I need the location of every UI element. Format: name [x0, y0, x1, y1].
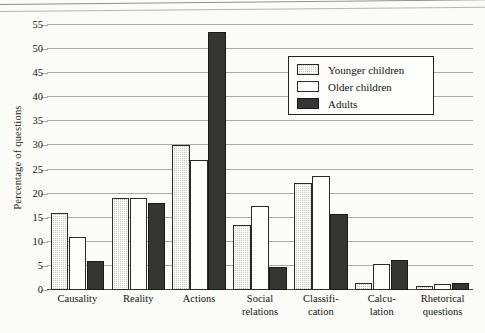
bar	[87, 261, 105, 290]
y-tick-label-0: 0	[38, 284, 43, 295]
x-axis-label-line: Actions	[169, 293, 230, 306]
x-axis-label-line: questions	[412, 306, 473, 319]
chart-figure: Percentage of questions 0510152025303540…	[0, 0, 485, 333]
bar	[355, 283, 373, 290]
bar	[269, 267, 287, 290]
x-axis-label: Socialrelations	[230, 293, 291, 318]
bar	[69, 237, 87, 290]
x-axis-label: Actions	[169, 293, 230, 306]
x-axis-label: Calcu-lation	[351, 293, 412, 318]
y-tick-label-25: 25	[33, 164, 44, 175]
y-tick-label-45: 45	[33, 67, 44, 78]
bar	[391, 260, 409, 290]
bar	[172, 145, 190, 291]
bar	[251, 206, 269, 290]
y-tick-label-30: 30	[33, 140, 44, 151]
legend-swatch-icon	[297, 81, 319, 92]
legend-swatch-icon	[297, 98, 319, 109]
chart-legend: Younger childrenOlder childrenAdults	[288, 56, 434, 115]
bar	[294, 183, 312, 290]
x-axis-label-line: Reality	[108, 293, 169, 306]
bar	[233, 225, 251, 290]
legend-label: Younger children	[328, 64, 404, 76]
bar	[330, 214, 348, 290]
x-axis-label: Causality	[47, 293, 108, 306]
bar-group	[233, 25, 287, 290]
x-axis-label-line: relations	[230, 306, 291, 319]
bar-group	[112, 25, 166, 290]
bar	[148, 203, 166, 290]
bar	[416, 286, 434, 290]
x-axis-labels: CausalityRealityActionsSocialrelationsCl…	[47, 293, 473, 333]
bar	[190, 160, 208, 290]
y-tick-label-35: 35	[33, 116, 44, 127]
y-axis-title: Percentage of questions	[12, 78, 23, 238]
x-axis-label-line: Classifi-	[290, 293, 351, 306]
bar	[112, 198, 130, 291]
bar-group	[51, 25, 105, 290]
bar	[130, 198, 148, 290]
x-axis-label: Reality	[108, 293, 169, 306]
y-tick-label-20: 20	[33, 188, 44, 199]
legend-label: Older children	[328, 81, 392, 93]
y-tick-label-50: 50	[33, 43, 44, 54]
x-axis-label-line: Causality	[47, 293, 108, 306]
x-axis-label-line: Calcu-	[351, 293, 412, 306]
x-axis-label: Classifi-cation	[290, 293, 351, 318]
y-tick-label-40: 40	[33, 92, 44, 103]
y-tick-label-5: 5	[38, 260, 43, 271]
y-tick-label-55: 55	[33, 19, 44, 30]
bar	[312, 176, 330, 290]
bar	[208, 32, 226, 290]
x-axis-label-line: lation	[351, 306, 412, 319]
bar-group	[172, 25, 226, 290]
y-tick-label-15: 15	[33, 212, 44, 223]
bar	[373, 264, 391, 291]
legend-item: Adults	[289, 95, 433, 112]
legend-swatch-icon	[297, 64, 319, 75]
page-edge-line-secondary	[0, 7, 485, 21]
legend-item: Older children	[289, 78, 433, 95]
legend-label: Adults	[328, 98, 357, 110]
x-axis-label-line: Rhetorical	[412, 293, 473, 306]
bar	[434, 284, 452, 290]
x-axis-label-line: cation	[290, 306, 351, 319]
x-axis-label-line: Social	[230, 293, 291, 306]
x-axis-label: Rhetoricalquestions	[412, 293, 473, 318]
bar	[452, 283, 470, 290]
legend-item: Younger children	[289, 61, 433, 78]
page-edge-line	[0, 0, 485, 14]
bar	[51, 213, 69, 290]
y-tick-label-10: 10	[33, 236, 44, 247]
